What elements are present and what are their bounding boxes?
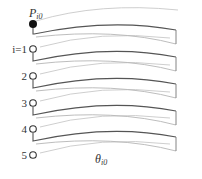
- angle-label: θi0: [95, 152, 107, 167]
- layered-arc-diagram: Pi0 i=1 2 3 4 5 θi0: [0, 0, 202, 179]
- layer-1-label: i=1: [12, 43, 27, 55]
- layer-2-label: 2: [22, 70, 28, 82]
- strip-1: [33, 51, 176, 71]
- guide-arc-5: [40, 141, 170, 153]
- guide-arc-1: [40, 35, 170, 47]
- strip-0: [33, 24, 176, 44]
- guide-arc-3: [40, 89, 170, 101]
- guide-arc-top: [36, 8, 178, 21]
- layer-4-label: 4: [22, 123, 28, 135]
- layer-5-marker: [30, 152, 37, 159]
- layer-2-marker: [30, 73, 37, 80]
- top-point-label-sub: i0: [36, 12, 42, 21]
- layer-3-marker: [30, 100, 37, 107]
- strip-3: [33, 105, 176, 125]
- strip-2: [33, 78, 176, 98]
- strip-4: [33, 131, 176, 151]
- angle-label-sub: i0: [101, 158, 107, 167]
- layer-1-marker: [30, 46, 37, 53]
- top-point-marker: [29, 20, 37, 28]
- guide-arc-4: [40, 115, 170, 127]
- layer-5-label: 5: [22, 149, 28, 161]
- guide-arc-2: [40, 62, 170, 74]
- top-point-label: Pi0: [28, 6, 43, 21]
- layer-4-marker: [30, 126, 37, 133]
- layer-3-label: 3: [22, 97, 28, 109]
